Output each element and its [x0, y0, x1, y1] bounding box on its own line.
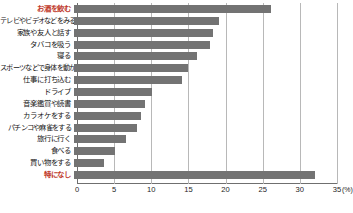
bar — [74, 135, 126, 143]
bar-cell — [74, 39, 343, 51]
bar-row: お酒を飲む — [0, 3, 343, 15]
bar-cell — [74, 110, 343, 122]
bar-label: 特になし — [0, 171, 74, 179]
bar-cell — [74, 157, 343, 169]
x-tick-label: 5 — [112, 185, 116, 195]
bar-cell — [74, 86, 343, 98]
bar-row: 買い物をする — [0, 157, 343, 169]
bar — [74, 76, 182, 84]
bar — [74, 41, 210, 49]
bar-row: 旅行に行く — [0, 133, 343, 145]
bar-label: タバコを吸う — [0, 41, 74, 49]
bar-cell — [74, 62, 343, 74]
bar-row: 食べる — [0, 145, 343, 157]
bar-cell — [74, 169, 343, 181]
bar-label: カラオケをする — [0, 112, 74, 120]
bar-label: ドライブ — [0, 88, 74, 96]
x-tick-label: 25 — [258, 185, 266, 195]
bar-label: お酒を飲む — [0, 5, 74, 13]
bar-label: 寝る — [0, 52, 74, 60]
bar-label: 音楽鑑賞や読書 — [0, 100, 74, 108]
bar-cell — [74, 15, 343, 27]
bar-row: カラオケをする — [0, 110, 343, 122]
x-tick-label: 30 — [296, 185, 304, 195]
bar-label: 食べる — [0, 147, 74, 155]
bar-cell — [74, 145, 343, 157]
bar-cell — [74, 74, 343, 86]
bar-label: スポーツなどで身体を動かす — [0, 64, 74, 72]
x-tick-label: 20 — [221, 185, 229, 195]
bar-label: 家族や友人と話す — [0, 29, 74, 37]
bar-cell — [74, 27, 343, 39]
bar — [74, 171, 315, 179]
x-tick-label: 35 — [333, 185, 341, 195]
x-tick-label: 10 — [147, 185, 155, 195]
bar-cell — [74, 3, 343, 15]
bar-row: 家族や友人と話す — [0, 27, 343, 39]
bar-row: 仕事に打ち込む — [0, 74, 343, 86]
bar-row: 特になし — [0, 169, 343, 181]
bar-label: テレビやビデオなどをみる — [0, 17, 74, 25]
bar — [74, 88, 152, 96]
bar-row: スポーツなどで身体を動かす — [0, 62, 343, 74]
bar — [74, 5, 271, 13]
bar — [74, 124, 137, 132]
bar-cell — [74, 98, 343, 110]
bar — [74, 100, 145, 108]
bar-cell — [74, 133, 343, 145]
x-axis-line — [77, 183, 338, 184]
bar-cell — [74, 50, 343, 62]
bar-row: タバコを吸う — [0, 39, 343, 51]
bar — [74, 147, 115, 155]
bar — [74, 112, 141, 120]
bar — [74, 17, 219, 25]
bar-row: テレビやビデオなどをみる — [0, 15, 343, 27]
bar-label: 仕事に打ち込む — [0, 76, 74, 84]
bar-rows: お酒を飲むテレビやビデオなどをみる家族や友人と話すタバコを吸う寝るスポーツなどで… — [0, 3, 343, 181]
x-tick-label: 15 — [184, 185, 192, 195]
bar-row: 寝る — [0, 50, 343, 62]
bar-label: 旅行に行く — [0, 135, 74, 143]
bar-row: 音楽鑑賞や読書 — [0, 98, 343, 110]
bar — [74, 159, 104, 167]
bar-row: パチンコや麻雀をする — [0, 122, 343, 134]
bar — [74, 52, 197, 60]
x-tick-label: 0 — [75, 185, 79, 195]
x-axis-unit-label: (%) — [342, 185, 353, 195]
bar-label: パチンコや麻雀をする — [0, 124, 74, 132]
bar — [74, 29, 213, 37]
x-axis-ticks: 05101520253035(%) — [0, 185, 343, 199]
bar — [74, 64, 188, 72]
bar-row: ドライブ — [0, 86, 343, 98]
bar-label: 買い物をする — [0, 159, 74, 167]
bar-cell — [74, 122, 343, 134]
